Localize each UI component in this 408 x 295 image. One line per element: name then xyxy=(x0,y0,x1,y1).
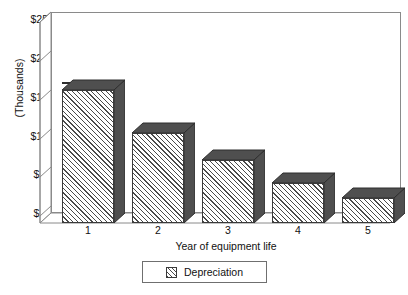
bar-front-face xyxy=(202,160,254,223)
x-axis-tick-label: 1 xyxy=(68,224,108,236)
bar-front-face xyxy=(132,133,184,223)
y-axis-tick-label: $25 xyxy=(6,13,48,25)
y-axis-tick-label: $10 xyxy=(6,130,48,142)
y-axis-tick-label: $ 0 xyxy=(6,207,48,219)
y-axis-tick-labels: $25 $20 $15 $10 $ 5 $ 0 xyxy=(0,0,48,295)
hatched-swatch-icon xyxy=(166,267,177,278)
x-axis-tick-label: 2 xyxy=(138,224,178,236)
legend-entry-label: Depreciation xyxy=(184,266,243,278)
x-axis-title: Year of equipment life xyxy=(51,240,401,252)
bar-front-face xyxy=(62,90,114,223)
x-axis-tick-label: 4 xyxy=(278,224,318,236)
x-axis-tick-label: 3 xyxy=(208,224,248,236)
chart-figure: (Thousands) $25 $20 $15 $10 $ 5 $ 0 xyxy=(0,0,408,295)
x-axis-tick-label: 5 xyxy=(348,224,388,236)
bar-front-face xyxy=(342,198,394,223)
y-axis-tick-label: $20 xyxy=(6,52,48,64)
y-axis-tick-label: $15 xyxy=(6,91,48,103)
y-axis-tick-label: $ 5 xyxy=(6,168,48,180)
bar-front-face xyxy=(272,183,324,223)
chart-legend: Depreciation xyxy=(142,261,267,283)
